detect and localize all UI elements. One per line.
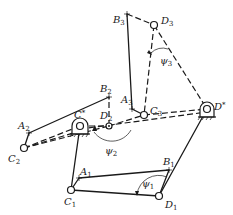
- arrow-head-psi1: [135, 191, 139, 196]
- link-d2-c3: [109, 115, 144, 126]
- label-c1: C1: [64, 196, 76, 209]
- linkage-diagram: A1 C1 B1 D1 A2 C2 B2 D2 A3 B3 C3 D3 C* D…: [0, 0, 233, 215]
- fixed-pivot-cstar: [70, 118, 90, 137]
- link-a2-b2: [29, 97, 109, 133]
- label-d1: D1: [164, 199, 178, 212]
- link-d3-c3: [144, 25, 154, 115]
- label-b1: B1: [162, 156, 175, 169]
- angle-arc-psi3: [151, 48, 168, 53]
- link-d3-dstar: [154, 25, 207, 109]
- link-c1-d1: [71, 190, 159, 196]
- position-1: [71, 109, 207, 196]
- joint-d3: [151, 22, 158, 29]
- link-b3-d3: [127, 14, 154, 25]
- joint-c2: [21, 145, 28, 152]
- label-psi3: ψ3: [160, 55, 172, 68]
- label-psi1: ψ1: [142, 178, 154, 191]
- label-d3: D3: [160, 15, 174, 28]
- label-psi2: ψ2: [105, 145, 117, 158]
- label-c3: C3: [150, 105, 162, 118]
- label-d2: D2: [99, 110, 113, 123]
- joint-c1: [68, 187, 75, 194]
- angle-arc-psi2: [94, 130, 131, 141]
- label-dstar: D*: [213, 101, 226, 112]
- joint-c3: [141, 112, 148, 119]
- label-b3: B3: [112, 14, 125, 27]
- label-b2: B2: [99, 83, 112, 96]
- label-a2: A2: [17, 120, 30, 133]
- tick-marks: [26, 11, 172, 181]
- label-c2: C2: [8, 153, 20, 166]
- joint-d1: [156, 193, 163, 200]
- link-a1-b1: [79, 170, 169, 178]
- link-dstar-d1: [159, 109, 207, 196]
